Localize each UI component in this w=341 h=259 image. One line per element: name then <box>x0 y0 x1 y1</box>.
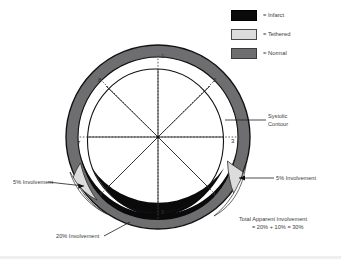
tethered-swatch <box>231 29 257 40</box>
diagram-center <box>156 135 159 138</box>
involvement-left-label: 5% Involvement <box>13 179 53 186</box>
systolic-contour-label-line1: Systolic <box>268 113 287 120</box>
leader-bottom-20pct <box>104 222 130 236</box>
legend-label-infarct: = Infarct <box>263 12 284 18</box>
figure-root: 1 2 3 4 5 6 7 8 = Infarct = Tethered <box>0 0 341 259</box>
total-involvement-line2: = 20% + 10% = 30% <box>252 224 304 231</box>
involvement-right-label: 5% Involvement <box>276 175 316 182</box>
normal-swatch <box>231 48 257 59</box>
legend-label-normal: = Normal <box>263 50 287 56</box>
total-involvement-line1: Total Apparent Involvement <box>239 216 307 223</box>
infarct-swatch <box>231 10 257 21</box>
systolic-contour-label-line2: Contour <box>268 121 288 128</box>
involvement-bottom-label: 20% Involvement <box>56 233 99 240</box>
legend-label-tethered: = Tethered <box>263 31 290 37</box>
